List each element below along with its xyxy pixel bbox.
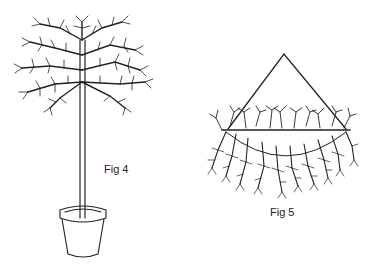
hanging-basket-illustration bbox=[208, 54, 358, 198]
tree-illustration bbox=[14, 16, 153, 257]
figure-5-caption: Fig 5 bbox=[270, 206, 294, 218]
figure-4-caption: Fig 4 bbox=[104, 163, 128, 175]
illustration-canvas bbox=[0, 0, 377, 269]
